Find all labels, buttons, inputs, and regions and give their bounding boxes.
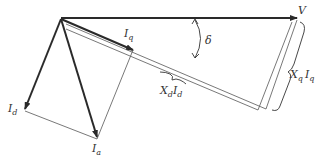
label-ia: Ia: [91, 142, 101, 157]
xqiq-brace: [272, 22, 305, 111]
label-xdid: XdId: [159, 84, 182, 99]
xqiq-line-outer: [266, 20, 297, 109]
delta-arrow-bottom: [192, 53, 199, 58]
phasor-diagram: V Iq Id Ia XqIq XdId δ: [0, 0, 328, 162]
iq-to-ia-line: [97, 50, 133, 139]
id-to-ia-line: [25, 111, 97, 139]
id-phasor: [25, 19, 61, 109]
delta-arc: [195, 20, 201, 58]
delta-arrow-top: [192, 19, 198, 24]
label-id: Id: [7, 102, 17, 117]
label-v: V: [298, 4, 307, 17]
xqiq-line-inner: [258, 22, 292, 110]
iq-phasor: [61, 19, 133, 50]
label-delta: δ: [205, 34, 212, 47]
label-xqiq: XqIq: [289, 68, 314, 83]
ia-phasor: [61, 19, 97, 137]
label-iq: Iq: [123, 27, 133, 42]
xdid-line-inner: [66, 29, 258, 110]
